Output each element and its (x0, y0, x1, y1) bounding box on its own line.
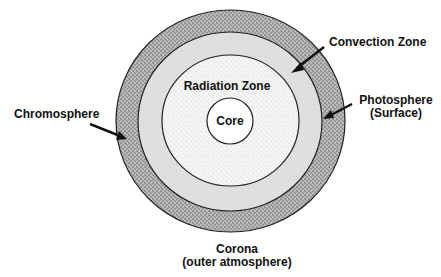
corona-label: Corona (216, 242, 258, 256)
convection-zone-label: Convection Zone (329, 35, 427, 49)
core-label: Core (216, 114, 244, 128)
corona-sublabel: (outer atmosphere) (182, 255, 291, 269)
sun-layers-diagram: Convection Zone Radiation Zone Core Chro… (0, 0, 441, 277)
photosphere-label: Photosphere (359, 93, 433, 107)
radiation-zone-label: Radiation Zone (184, 79, 271, 93)
photosphere-sublabel: (Surface) (370, 106, 422, 120)
chromosphere-label: Chromosphere (14, 107, 100, 121)
